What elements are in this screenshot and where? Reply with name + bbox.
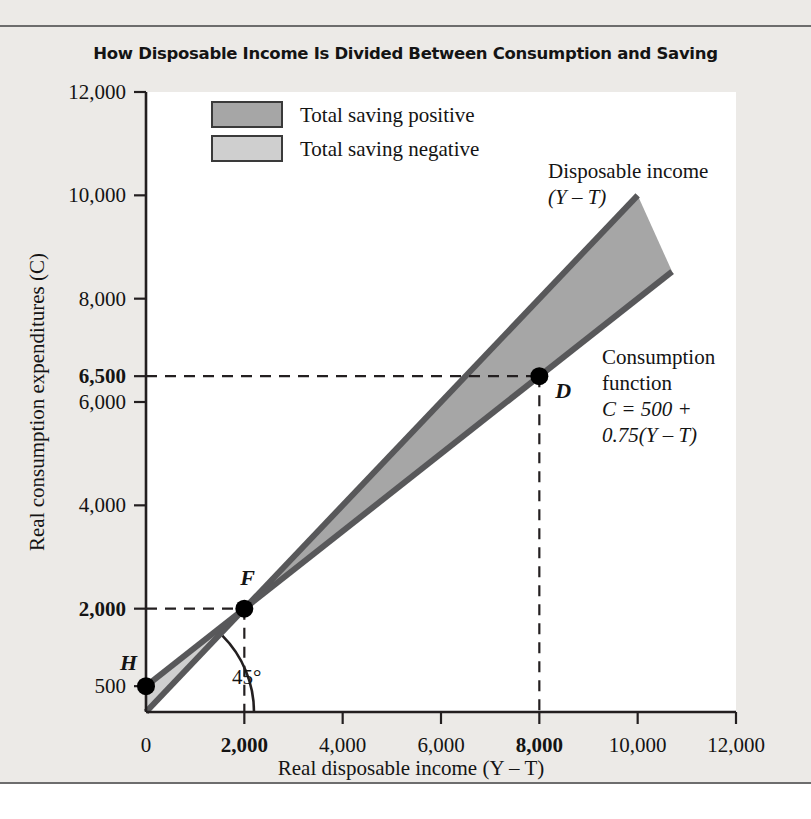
x-tick-label-8000: 8,000 <box>516 733 563 757</box>
y-tick-label-8000: 8,000 <box>79 287 126 311</box>
data-point-H <box>137 677 155 695</box>
annotation-angle-45: 45° <box>232 665 261 689</box>
x-tick-label-4000: 4,000 <box>319 733 366 757</box>
x-tick-label-0: 0 <box>141 733 152 757</box>
figure-container: How Disposable Income Is Divided Between… <box>0 0 811 819</box>
y-tick-label-500: 500 <box>95 674 127 698</box>
y-axis-ticks: 5002,0004,0006,0006,5008,00010,00012,000 <box>68 80 146 698</box>
data-point-label-H: H <box>119 650 138 675</box>
y-tick-label-12000: 12,000 <box>68 80 126 104</box>
y-tick-label-10000: 10,000 <box>68 183 126 207</box>
x-axis-ticks: 02,0004,0006,0008,00010,00012,000 <box>141 712 765 757</box>
data-point-label-F: F <box>239 565 255 590</box>
legend-swatch-total-saving-positive <box>212 102 282 127</box>
annotation-consumption-line2: function <box>602 371 672 395</box>
y-tick-label-6000: 6,000 <box>79 390 126 414</box>
y-tick-label-4000: 4,000 <box>79 493 126 517</box>
annotation-consumption-line4: 0.75(Y – T) <box>602 423 697 447</box>
legend-swatch-total-saving-negative <box>212 136 282 161</box>
annotation-consumption-line1: Consumption <box>602 345 716 369</box>
x-tick-label-2000: 2,000 <box>221 733 268 757</box>
y-tick-label-2000: 2,000 <box>79 597 126 621</box>
legend-label-total-saving-positive: Total saving positive <box>300 103 475 127</box>
annotation-consumption-line3: C = 500 + <box>602 397 692 421</box>
chart-plot: 5002,0004,0006,0006,5008,00010,00012,000… <box>0 0 811 819</box>
x-tick-label-12000: 12,000 <box>707 733 765 757</box>
data-point-D <box>530 367 548 385</box>
data-point-label-D: D <box>554 378 571 403</box>
x-tick-label-6000: 6,000 <box>417 733 464 757</box>
y-tick-label-6500: 6,500 <box>79 364 126 388</box>
y-axis-title: Real consumption expenditures (C) <box>25 253 49 551</box>
x-tick-label-10000: 10,000 <box>609 733 667 757</box>
data-point-F <box>235 600 253 618</box>
legend-label-total-saving-negative: Total saving negative <box>300 137 479 161</box>
annotation-disposable-income-line1: Disposable income <box>548 159 708 183</box>
x-axis-title: Real disposable income (Y – T) <box>278 756 545 780</box>
annotation-disposable-income-line2: (Y – T) <box>548 185 606 209</box>
